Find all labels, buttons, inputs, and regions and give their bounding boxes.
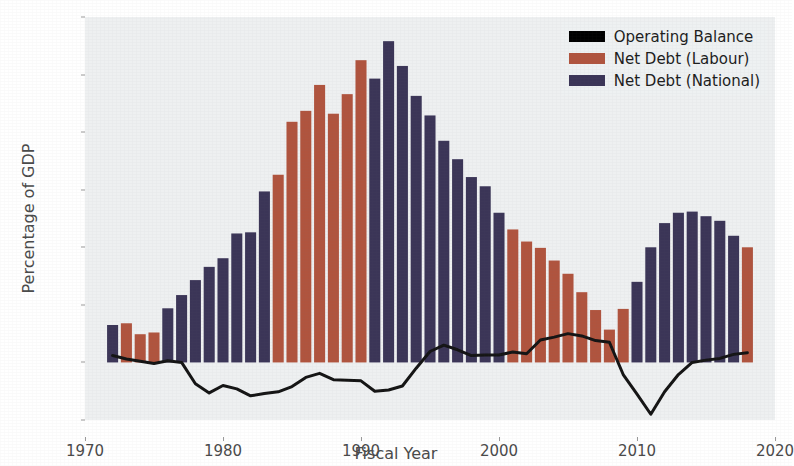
y-tick-mark [81, 132, 85, 133]
bar [411, 96, 422, 363]
bar [355, 60, 366, 362]
bar [286, 122, 297, 363]
bar [204, 267, 215, 363]
bar [728, 236, 739, 363]
y-tick-mark [81, 362, 85, 363]
x-tick-mark [637, 437, 638, 441]
bar [645, 247, 656, 362]
bar [190, 280, 201, 362]
plot-area: Operating Balance Net Debt (Labour) Net … [85, 17, 775, 420]
bar [590, 310, 601, 362]
x-tick-mark [775, 437, 776, 441]
bar [521, 242, 532, 363]
bar [245, 232, 256, 362]
bar [397, 66, 408, 362]
bar [162, 308, 173, 362]
bar [507, 229, 518, 362]
bar [135, 334, 146, 362]
bar [549, 261, 560, 363]
legend-item-operating-balance: Operating Balance [569, 27, 760, 46]
bar [742, 247, 753, 362]
bar [452, 159, 463, 362]
y-tick-mark [81, 74, 85, 75]
legend-label-net-debt-national: Net Debt (National) [614, 72, 760, 90]
bar [618, 309, 629, 363]
bar [148, 332, 159, 362]
bar [466, 177, 477, 362]
legend-item-net-debt-labour: Net Debt (Labour) [569, 49, 760, 68]
bar [424, 115, 435, 362]
bar [562, 274, 573, 363]
legend-swatch-net-debt-national [569, 75, 605, 86]
bar [687, 212, 698, 363]
bar [217, 258, 228, 362]
chart-legend: Operating Balance Net Debt (Labour) Net … [562, 22, 767, 95]
bar [342, 94, 353, 362]
bar [176, 295, 187, 362]
y-axis-label: Percentage of GDP [19, 99, 38, 339]
bar [259, 191, 270, 362]
legend-item-net-debt-national: Net Debt (National) [569, 71, 760, 90]
y-tick-mark [81, 247, 85, 248]
legend-swatch-net-debt-labour [569, 53, 605, 64]
y-tick-mark [81, 189, 85, 190]
legend-swatch-operating-balance [569, 31, 605, 42]
x-tick-mark [85, 437, 86, 441]
y-tick-mark [81, 304, 85, 305]
bar [383, 41, 394, 362]
y-tick-mark [81, 17, 85, 18]
bar [631, 282, 642, 363]
legend-label-operating-balance: Operating Balance [614, 28, 754, 46]
bar [300, 111, 311, 363]
bar [314, 85, 325, 362]
x-tick-mark [499, 437, 500, 441]
bar [493, 213, 504, 363]
legend-label-net-debt-labour: Net Debt (Labour) [614, 50, 750, 68]
bar [231, 233, 242, 362]
x-tick-mark [361, 437, 362, 441]
bar [576, 292, 587, 362]
bar [328, 114, 339, 363]
bar [714, 221, 725, 363]
bar [480, 186, 491, 362]
x-axis-label: Fiscal Year [0, 444, 792, 463]
bar [700, 216, 711, 362]
bar [673, 213, 684, 363]
y-tick-mark [81, 420, 85, 421]
bar [659, 223, 670, 362]
bar [369, 79, 380, 363]
x-tick-mark [223, 437, 224, 441]
bar [273, 175, 284, 363]
bar [438, 141, 449, 363]
